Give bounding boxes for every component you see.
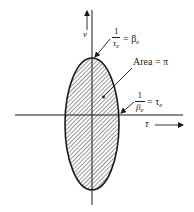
right-intercept-numerator: 1	[137, 91, 144, 100]
top-intercept-leader-arrow	[95, 39, 110, 57]
horizontal-axis-label: τ	[145, 119, 149, 129]
right-intercept-denominator: βe	[135, 103, 145, 114]
equals-text: = β	[123, 33, 136, 44]
right-intercept-leader-arrow	[121, 102, 134, 113]
right-intercept-equals: = τe	[147, 96, 162, 109]
equals-subscript: e	[159, 101, 162, 109]
denominator-subscript: e	[140, 106, 143, 114]
equals-subscript: e	[136, 38, 139, 46]
top-intercept-equals: = βe	[123, 33, 139, 46]
vertical-axis-label: ν	[83, 30, 87, 39]
right-intercept-fraction: 1 βe	[135, 91, 145, 114]
top-intercept-fraction: 1 τe	[112, 27, 120, 50]
area-label: Area = π	[133, 57, 168, 67]
top-intercept-numerator: 1	[113, 27, 120, 36]
ellipse-diagram	[0, 0, 194, 212]
area-leader-dot	[102, 96, 105, 99]
top-intercept-denominator: τe	[112, 39, 120, 50]
denominator-subscript: e	[116, 42, 119, 50]
equals-text: = τ	[147, 96, 159, 107]
